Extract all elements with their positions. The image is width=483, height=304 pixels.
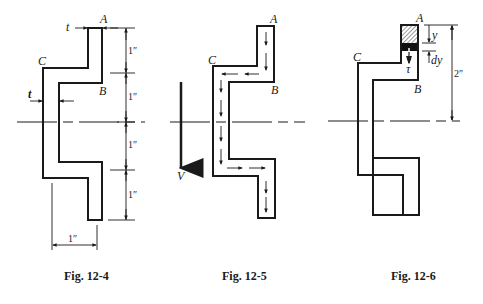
thickness-label-top: t [66,20,70,34]
figure-caption: Fig. 12-6 [391,269,436,283]
dim-label-3: 1″ [128,139,137,150]
point-c-label: C [208,53,217,67]
figure-caption: Fig. 12-4 [64,269,109,283]
point-a-label: A [415,11,424,25]
horizontal-dim-label: 1″ [68,233,77,244]
point-b-label: B [99,84,107,98]
dim-label-4: 1″ [128,189,137,200]
thickness-label: t [28,87,32,101]
height-dim-label: 2″ [454,68,463,79]
dim-label-1: 1″ [128,45,137,56]
dim-label-2: 1″ [128,91,137,102]
figure-12-4: 1″ 1″ 1″ 1″ t t 1″ A B C Fig. 12-4 [17,12,145,283]
point-c-label: C [38,54,47,68]
point-b-label: B [271,83,279,97]
tau-label: τ [406,62,411,76]
diagram-canvas: 1″ 1″ 1″ 1″ t t 1″ A B C Fig. 12-4 V [0,0,483,304]
z-section-outline [373,25,419,215]
figure-12-6: τ y dy 2″ A B C Fig. 12-6 [328,11,463,283]
point-a-label: A [99,12,108,26]
point-b-label: B [414,82,422,96]
dy-label: dy [431,53,443,67]
point-a-label: A [269,12,278,26]
shear-force-label: V [177,169,186,183]
figure-caption: Fig. 12-5 [222,269,267,283]
point-c-label: C [353,50,362,64]
y-label: y [431,28,438,42]
figure-12-5: V A B C Fig. 12-5 [170,12,305,283]
hatched-area [401,25,418,43]
